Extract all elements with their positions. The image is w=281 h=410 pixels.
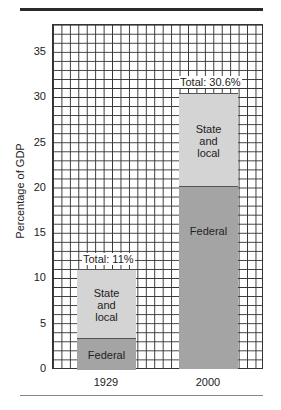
total-2000: Total: 30.6% [179,76,242,88]
bar-1929: State and local Federal [77,269,136,369]
state-label-line2: and [196,135,222,147]
bar-1929-state-local: State and local [77,269,136,339]
plot-area: State and local Federal Total: 11% State… [52,24,263,369]
y-tick-5: 5 [28,317,46,329]
y-tick-15: 15 [28,226,46,238]
y-tick-35: 35 [28,45,46,57]
bar-2000: State and local Federal [179,93,238,369]
y-axis-label: Percentage of GDP [14,136,26,246]
y-tick-30: 30 [28,90,46,102]
state-label-line1: State [196,123,222,135]
x-tick-1929: 1929 [76,376,136,388]
y-tick-0: 0 [28,362,46,374]
bar-2000-federal: Federal [179,186,238,369]
state-label-line1: State [94,287,120,299]
federal-label: Federal [190,225,227,237]
federal-label: Federal [88,349,125,361]
top-rule [20,8,263,11]
state-label-line3: local [94,311,120,323]
bar-1929-federal: Federal [77,338,136,370]
y-tick-20: 20 [28,181,46,193]
bottom-rule [20,395,263,396]
state-label-line3: local [196,147,222,159]
bar-2000-state-local: State and local [179,93,238,187]
x-tick-2000: 2000 [178,376,238,388]
total-1929: Total: 11% [82,253,135,265]
state-label-line2: and [94,299,120,311]
y-tick-10: 10 [28,271,46,283]
y-tick-25: 25 [28,136,46,148]
